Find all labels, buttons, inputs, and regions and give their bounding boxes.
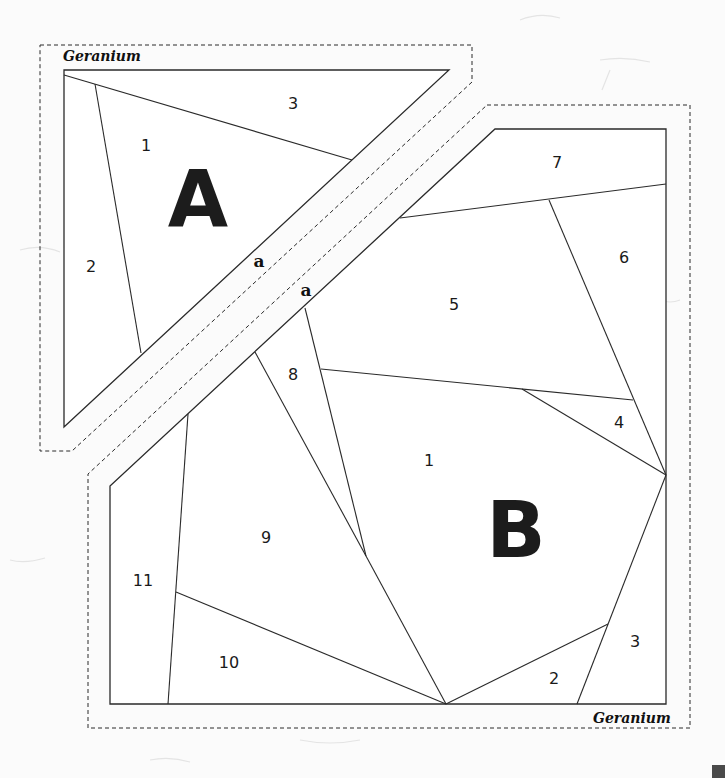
section-b-piece-8: 8: [288, 365, 298, 384]
section-b-piece-9: 9: [261, 528, 271, 547]
section-a-piece-1: 1: [141, 136, 151, 155]
section-b-piece-6: 6: [619, 248, 629, 267]
section-b-piece-11: 11: [133, 571, 153, 590]
section-b-piece-2: 2: [549, 669, 559, 688]
pattern-diagram: Geranium 1 2 3 A a Geranium 1 2 3 4 5 6 …: [0, 0, 725, 778]
section-a-join-mark: a: [253, 251, 264, 271]
section-a-letter: A: [168, 154, 228, 244]
section-b-letter: B: [486, 485, 545, 575]
section-b-piece-3: 3: [630, 632, 640, 651]
section-b-join-mark: a: [300, 280, 311, 300]
corner-marker: [712, 765, 725, 778]
section-b-piece-7: 7: [552, 153, 562, 172]
section-b-piece-10: 10: [219, 653, 239, 672]
section-b-piece-4: 4: [614, 413, 624, 432]
section-a-piece-2: 2: [86, 257, 96, 276]
section-b-name-label: Geranium: [593, 710, 671, 726]
section-a-name-label: Geranium: [63, 48, 141, 64]
section-b-piece-5: 5: [449, 295, 459, 314]
section-b-piece-1: 1: [424, 451, 434, 470]
section-a-piece-3: 3: [288, 94, 298, 113]
